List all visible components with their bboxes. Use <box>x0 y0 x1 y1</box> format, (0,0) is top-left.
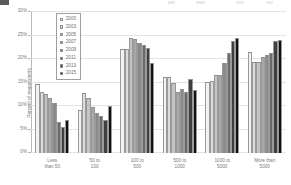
x-axis-labels: Lessthan 5050 to100100 to500500 to100010… <box>31 158 286 170</box>
x-axis-category-label: 100 to500 <box>116 158 159 170</box>
legend-item: 2000 <box>60 16 76 23</box>
legend-item: 2003 <box>60 24 76 31</box>
legend-item: 2015 <box>60 70 76 77</box>
legend-item: 2013 <box>60 63 76 70</box>
legend-label: 2011 <box>66 56 76 61</box>
legend-swatch <box>60 49 63 52</box>
legend-label: 2009 <box>66 48 76 53</box>
legend-swatch <box>60 18 63 21</box>
y-axis-tick-label: 15% <box>18 80 27 85</box>
y-axis-tick-label: 0% <box>20 151 27 156</box>
legend-label: 2007 <box>66 40 76 45</box>
y-axis-tick-label: 25% <box>18 33 27 38</box>
bar <box>65 120 69 153</box>
x-axis-category-label: 1000 to5000 <box>201 158 244 170</box>
legend: 20002003200520072009201120132015 <box>56 13 81 80</box>
bar <box>235 38 239 153</box>
legend-swatch <box>60 57 63 60</box>
legend-label: 2013 <box>66 64 76 69</box>
legend-swatch <box>60 25 63 28</box>
bar-group <box>159 12 202 153</box>
legend-label: 2005 <box>66 33 76 38</box>
x-axis-category-label: 500 to1000 <box>159 158 202 170</box>
y-axis-tick-label: 5% <box>20 127 27 132</box>
bar-group <box>116 12 159 153</box>
y-axis-tick-label: 20% <box>18 57 27 62</box>
legend-label: 2000 <box>66 17 76 22</box>
bar-group <box>244 12 287 153</box>
legend-swatch <box>60 72 63 75</box>
bar <box>193 90 197 153</box>
bar <box>108 106 112 153</box>
x-axis-category-label: 50 to100 <box>74 158 117 170</box>
y-axis-tick-label: 10% <box>18 104 27 109</box>
legend-item: 2011 <box>60 55 76 62</box>
legend-swatch <box>60 64 63 67</box>
legend-item: 2005 <box>60 32 76 39</box>
legend-item: 2007 <box>60 39 76 46</box>
y-axis-tick-label: 30% <box>18 10 27 15</box>
legend-swatch <box>60 33 63 36</box>
bar-chart: Percent of respondents 0%5%10%15%20%25%3… <box>0 0 291 185</box>
legend-swatch <box>60 41 63 44</box>
cropped-image-artifact <box>0 0 291 7</box>
legend-item: 2009 <box>60 47 76 54</box>
bar-group <box>201 12 244 153</box>
bar <box>278 40 282 153</box>
x-axis-category-label: More than5000 <box>244 158 287 170</box>
x-axis-category-label: Lessthan 50 <box>31 158 74 170</box>
legend-label: 2003 <box>66 25 76 30</box>
legend-label: 2015 <box>66 71 76 76</box>
bar <box>150 63 154 153</box>
